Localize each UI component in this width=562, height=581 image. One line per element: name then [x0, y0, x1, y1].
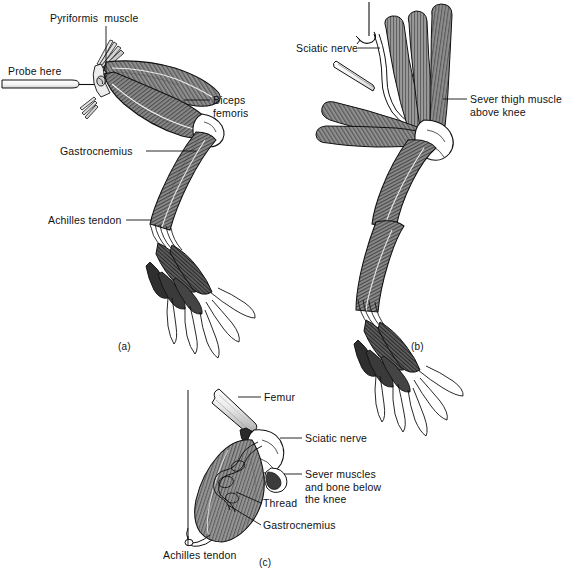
label-sciatic-nerve-b: Sciatic nerve [296, 42, 358, 55]
lower-thigh-mass-b [372, 140, 436, 228]
dissection-illustration [0, 0, 562, 581]
probe-rod [2, 80, 101, 88]
label-pyriformis-muscle: Pyriformis muscle [50, 12, 138, 25]
label-thread: Thread [263, 497, 297, 510]
caption-panel-b: (b) [411, 341, 424, 354]
probe-rod-b [333, 61, 374, 91]
label-achilles-tendon-a: Achilles tendon [48, 214, 121, 227]
panel-b-illustration [316, 2, 463, 436]
foot-muscles-a [146, 243, 212, 314]
caption-panel-a: (a) [118, 341, 131, 354]
femur-bone [212, 389, 257, 434]
label-gastrocnemius-c: Gastrocnemius [263, 519, 336, 532]
label-sever-thigh-muscle: Sever thigh muscle above knee [470, 93, 562, 118]
panel-a-illustration [2, 40, 255, 358]
label-achilles-tendon-c: Achilles tendon [163, 549, 236, 562]
label-biceps-femoris: Biceps femoris [213, 94, 248, 119]
label-femur: Femur [264, 391, 295, 404]
label-sever-muscles-bone: Sever muscles and bone below the knee [305, 468, 381, 506]
label-sciatic-nerve-c: Sciatic nerve [305, 432, 367, 445]
foot-muscles-b [354, 320, 420, 392]
figure-root: Pyriformis muscle Probe here Biceps femo… [0, 0, 562, 581]
label-probe-here: Probe here [8, 65, 61, 78]
nerve-hook [356, 2, 376, 44]
gastrocnemius-shape-a [150, 132, 216, 230]
caption-panel-c: (c) [259, 557, 271, 570]
gastrocnemius-shape-b [356, 221, 404, 312]
achilles-tendon-shape-a [150, 224, 182, 250]
gastrocnemius-shape-c [195, 440, 265, 542]
label-gastrocnemius-a: Gastrocnemius [60, 145, 133, 158]
severed-bone-below-knee [265, 468, 287, 492]
